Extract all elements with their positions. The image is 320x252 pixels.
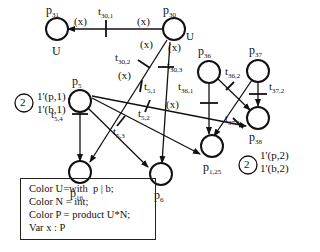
- label-p31: p31: [46, 3, 59, 19]
- arc-label-t30-1-p31: (x): [74, 15, 87, 27]
- color-label-p30: U: [186, 30, 194, 42]
- label-p37: p37: [249, 43, 262, 59]
- label-t30-3: t30,3: [167, 59, 182, 74]
- label-t36-2: t36,2: [225, 65, 240, 80]
- label-t36-1: t36,1: [178, 80, 193, 95]
- token-count-p5-value: 2: [20, 96, 26, 108]
- label-t5-3: t5,3: [113, 125, 125, 140]
- marking-p5-line1: 1'(p,1): [37, 90, 66, 102]
- label-p5: p5: [72, 74, 82, 90]
- arc-label-p30-t30-3: (x): [168, 41, 181, 53]
- arc-label-p30-t30-2: (x): [140, 38, 153, 50]
- label-t37-2: t37,2: [269, 80, 284, 95]
- label-t30-2: t30,2: [115, 51, 130, 66]
- marking-p5-line2: 1'(b,1): [37, 103, 66, 115]
- label-p36: p36: [198, 44, 211, 60]
- label-p38: p38: [249, 130, 262, 146]
- declarations-box: Color U=with p | b; Color N = int; Color…: [20, 178, 156, 240]
- marking-p38-line1: 1'(p,2): [260, 149, 289, 161]
- arc-label-t30-3-p6: (x): [166, 98, 179, 110]
- token-count-p38-value: 2: [244, 158, 250, 170]
- label-p125: p1,25: [203, 160, 221, 176]
- arc-label-p30-t30-1: (x): [137, 15, 150, 27]
- declaration-line: Color N = int;: [29, 195, 155, 208]
- marking-p38-line2: 1'(b,2): [260, 162, 289, 174]
- label-t5-2: t5,2: [138, 107, 150, 122]
- label-t30-1: t30,1: [98, 5, 113, 20]
- label-t37-1: t37,1: [225, 112, 240, 127]
- color-label-p31: U: [52, 44, 61, 59]
- label-p30: p30: [163, 3, 176, 19]
- arc-label-t30-2-p16: (x): [118, 69, 131, 81]
- declaration-line: Color P = product U*N;: [29, 208, 155, 221]
- declaration-line: Color U=with p | b;: [29, 182, 155, 195]
- declaration-line: Var x : P: [29, 221, 155, 234]
- label-t5-1: t5,1: [144, 80, 156, 95]
